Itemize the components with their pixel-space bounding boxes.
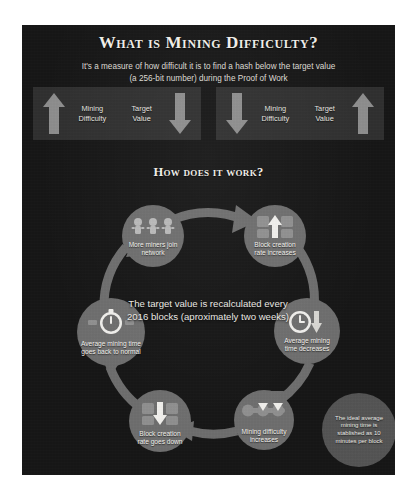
cycle-diagram: More miners join network xyxy=(22,185,395,475)
cycle-node-label: Block creation rate increases xyxy=(244,241,306,257)
cycle-node-block-rate-decreases[interactable]: Block creation rate goes down xyxy=(129,390,191,452)
side-note-bubble: The ideal average mining time is stablis… xyxy=(322,393,395,467)
cycle-node-label: Block creation rate goes down xyxy=(129,430,191,446)
comparison-left-label-target-value: TargetValue xyxy=(120,104,164,123)
cycle-node-difficulty-increases[interactable]: Mining difficulty increases xyxy=(234,390,294,450)
section-heading: How does it work? xyxy=(22,165,395,180)
cycle-node-more-miners[interactable]: More miners join network xyxy=(122,205,184,267)
arrow-up-icon xyxy=(352,93,375,134)
page-title: What is Mining Difficulty? xyxy=(22,33,395,53)
comparison-left-label-mining-difficulty: MiningDifficulty xyxy=(70,104,114,123)
subtitle-line-1: It's a measure of how difficult it is to… xyxy=(82,62,336,71)
cycle-node-label: Mining difficulty increases xyxy=(234,428,294,444)
arrow-down-icon xyxy=(169,93,192,134)
comparison-panel-difficulty-up: MiningDifficulty TargetValue xyxy=(33,87,201,140)
difficulty-bar-icon xyxy=(234,400,294,418)
blocks-arrow-down-icon xyxy=(129,400,191,426)
miners-icon xyxy=(122,215,184,237)
cycle-node-label: Average mining time goes back to normal xyxy=(77,340,145,356)
blocks-arrow-up-icon xyxy=(244,213,306,239)
infographic-panel: What is Mining Difficulty? It's a measur… xyxy=(22,25,395,475)
comparison-panel-difficulty-down: MiningDifficulty TargetValue xyxy=(216,87,384,140)
side-note-text: The ideal average mining time is stablis… xyxy=(322,415,395,445)
comparison-right-label-mining-difficulty: MiningDifficulty xyxy=(253,104,297,123)
cycle-node-block-rate-increases[interactable]: Block creation rate increases xyxy=(244,205,306,267)
arrow-down-icon xyxy=(225,93,248,134)
subtitle-line-2: (a 256-bit number) during the Proof of W… xyxy=(129,74,287,83)
cycle-center-text: The target value is recalculated every 2… xyxy=(118,297,298,323)
arrow-up-icon xyxy=(42,93,65,134)
page-subtitle: It's a measure of how difficult it is to… xyxy=(56,61,361,85)
cycle-node-label: Average mining time decreases xyxy=(274,337,340,353)
comparison-right-label-target-value: TargetValue xyxy=(303,104,347,123)
cycle-node-label: More miners join network xyxy=(122,241,184,257)
